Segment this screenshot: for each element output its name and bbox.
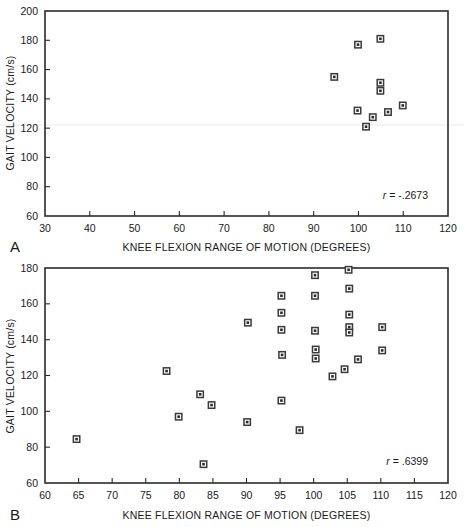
data-point-center-dot bbox=[365, 125, 368, 128]
x-axis-tick-label: 40 bbox=[84, 222, 96, 234]
x-axis-tick-label: 100 bbox=[305, 489, 323, 501]
data-point-center-dot bbox=[199, 393, 202, 396]
panel-letter: A bbox=[10, 238, 20, 255]
x-axis-tick-label: 120 bbox=[439, 222, 457, 234]
scatter-plot-b: 6065707580859095100105110115120608010012… bbox=[0, 260, 464, 527]
x-axis-tick-label: 50 bbox=[129, 222, 141, 234]
data-point-center-dot bbox=[381, 326, 384, 329]
data-point-center-dot bbox=[280, 399, 283, 402]
data-point-center-dot bbox=[348, 287, 351, 290]
x-axis-tick-label: 70 bbox=[218, 222, 230, 234]
correlation-annotation: r= -.2673 bbox=[383, 189, 428, 201]
data-point-center-dot bbox=[281, 354, 284, 357]
x-axis-tick-label: 60 bbox=[39, 489, 51, 501]
y-axis-tick-label: 160 bbox=[20, 63, 38, 75]
chart-panel-b: 6065707580859095100105110115120608010012… bbox=[0, 260, 464, 527]
x-axis-tick-label: 95 bbox=[274, 489, 286, 501]
y-axis-tick-label: 200 bbox=[20, 5, 38, 17]
y-axis-tick-label: 120 bbox=[20, 369, 38, 381]
plot-frame bbox=[45, 268, 448, 483]
data-point-center-dot bbox=[314, 329, 317, 332]
data-point-center-dot bbox=[357, 43, 360, 46]
y-axis-tick-label: 100 bbox=[20, 405, 38, 417]
y-axis-tick-label: 180 bbox=[20, 34, 38, 46]
panel-letter: B bbox=[10, 506, 20, 523]
data-point-center-dot bbox=[280, 329, 283, 332]
data-point-center-dot bbox=[280, 311, 283, 314]
data-point-center-dot bbox=[401, 104, 404, 107]
y-axis-tick-label: 140 bbox=[20, 333, 38, 345]
y-axis-tick-label: 80 bbox=[26, 441, 38, 453]
y-axis-tick-label: 140 bbox=[20, 92, 38, 104]
data-point-group bbox=[73, 267, 385, 468]
correlation-r-symbol: r bbox=[383, 189, 387, 201]
x-axis-tick-label: 115 bbox=[406, 489, 423, 501]
x-axis-tick-label: 75 bbox=[140, 489, 152, 501]
x-axis-title: KNEE FLEXION RANGE OF MOTION (DEGREES) bbox=[123, 241, 371, 253]
data-point-center-dot bbox=[356, 109, 359, 112]
y-axis-tick-label: 120 bbox=[20, 122, 38, 134]
x-axis-tick-label: 100 bbox=[350, 222, 368, 234]
data-point-center-dot bbox=[379, 81, 382, 84]
x-axis-tick-label: 30 bbox=[39, 222, 51, 234]
data-point-center-dot bbox=[210, 404, 213, 407]
data-point-center-dot bbox=[246, 421, 249, 424]
x-axis-tick-label: 80 bbox=[263, 222, 275, 234]
correlation-r-symbol: r bbox=[386, 455, 390, 467]
data-point-center-dot bbox=[348, 331, 351, 334]
x-axis-tick-label: 120 bbox=[439, 489, 457, 501]
data-point-center-dot bbox=[333, 76, 336, 79]
x-axis-tick-label: 110 bbox=[372, 489, 389, 501]
data-point-center-dot bbox=[348, 326, 351, 329]
correlation-r-value: = -.2673 bbox=[389, 189, 428, 201]
data-point-center-dot bbox=[314, 274, 317, 277]
data-point-center-dot bbox=[314, 357, 317, 360]
data-point-center-dot bbox=[379, 90, 382, 93]
correlation-annotation: r= .6399 bbox=[386, 455, 428, 467]
x-axis-tick-label: 110 bbox=[395, 222, 412, 234]
x-axis-tick-label: 105 bbox=[338, 489, 356, 501]
data-point-center-dot bbox=[165, 370, 168, 373]
x-axis-tick-label: 80 bbox=[173, 489, 185, 501]
y-axis-tick-label: 80 bbox=[26, 180, 38, 192]
data-point-center-dot bbox=[280, 294, 283, 297]
data-point-center-dot bbox=[381, 349, 384, 352]
data-point-center-dot bbox=[343, 368, 346, 371]
data-point-group bbox=[331, 36, 406, 130]
y-axis-tick-label: 180 bbox=[20, 262, 38, 274]
data-point-center-dot bbox=[387, 111, 390, 114]
data-point-center-dot bbox=[348, 313, 351, 316]
chart-panel-a: 3040506070809010011012060801001201401601… bbox=[0, 0, 464, 260]
data-point-center-dot bbox=[371, 116, 374, 119]
x-axis-tick-label: 70 bbox=[106, 489, 118, 501]
y-axis-tick-label: 60 bbox=[26, 210, 38, 222]
x-axis-tick-label: 90 bbox=[241, 489, 253, 501]
x-axis-tick-label: 85 bbox=[207, 489, 219, 501]
y-axis-title: GAIT VELOCITY (cm/s) bbox=[4, 55, 16, 170]
data-point-center-dot bbox=[177, 415, 180, 418]
data-point-center-dot bbox=[75, 438, 78, 441]
x-axis-tick-label: 90 bbox=[308, 222, 320, 234]
x-axis-tick-label: 60 bbox=[173, 222, 185, 234]
data-point-center-dot bbox=[331, 375, 334, 378]
data-point-center-dot bbox=[347, 268, 350, 271]
x-axis-tick-label: 65 bbox=[73, 489, 85, 501]
scientific-figure: 3040506070809010011012060801001201401601… bbox=[0, 0, 464, 527]
y-axis-title: GAIT VELOCITY (cm/s) bbox=[4, 318, 16, 433]
scatter-plot-a: 3040506070809010011012060801001201401601… bbox=[0, 0, 464, 260]
data-point-center-dot bbox=[202, 463, 205, 466]
y-axis-tick-label: 160 bbox=[20, 297, 38, 309]
data-point-center-dot bbox=[357, 358, 360, 361]
data-point-center-dot bbox=[379, 38, 382, 41]
data-point-center-dot bbox=[314, 348, 317, 351]
data-point-center-dot bbox=[314, 294, 317, 297]
y-axis-tick-label: 100 bbox=[20, 151, 38, 163]
x-axis-title: KNEE FLEXION RANGE OF MOTION (DEGREES) bbox=[123, 509, 371, 521]
correlation-r-value: = .6399 bbox=[393, 455, 428, 467]
data-point-center-dot bbox=[298, 429, 301, 432]
y-axis-tick-label: 60 bbox=[26, 477, 38, 489]
data-point-center-dot bbox=[247, 321, 250, 324]
